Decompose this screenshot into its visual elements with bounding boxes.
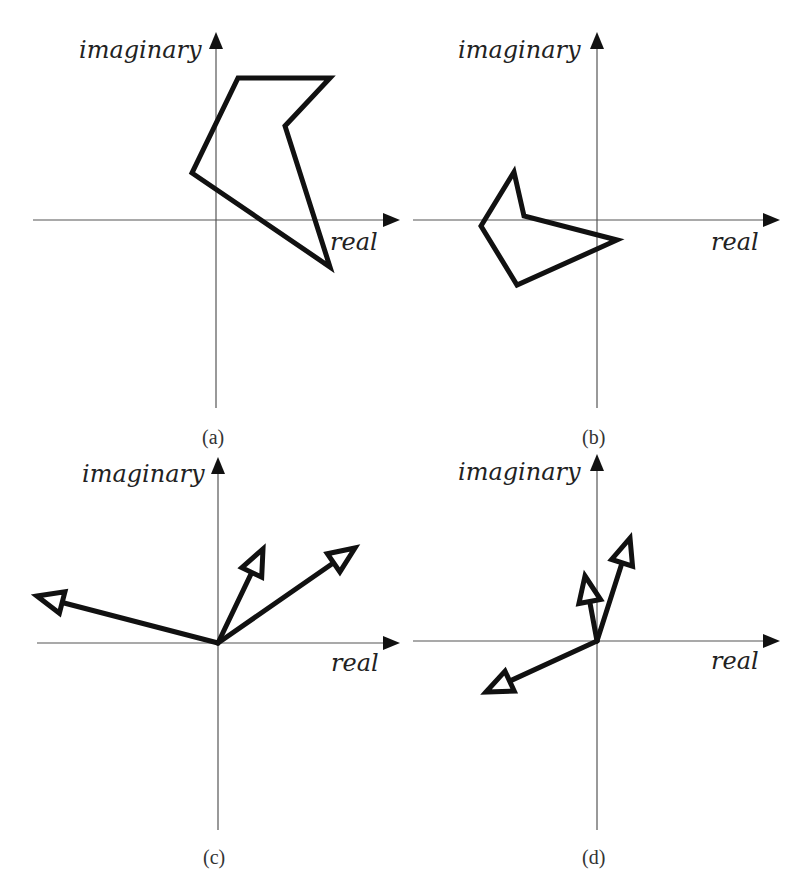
imaginary-axis-arrow-icon [590, 454, 604, 471]
panel-c: imaginary real (c) [37, 457, 400, 869]
panel-label: (c) [203, 846, 225, 869]
panel-d: imaginary real (d) [413, 454, 780, 869]
real-axis-arrow-icon [383, 636, 400, 650]
vector-shaft [590, 602, 597, 641]
vector-group [37, 548, 355, 643]
open-arrowhead-icon [37, 592, 65, 613]
vector-shaft [62, 603, 218, 643]
panel-a: imaginary real (a) [33, 32, 400, 449]
open-arrowhead-icon [242, 549, 263, 577]
open-arrowhead-icon [612, 538, 633, 566]
polygon-shape [192, 78, 330, 267]
imaginary-axis-arrow-icon [209, 32, 223, 49]
real-axis-label: real [330, 228, 378, 256]
imaginary-axis-label: imaginary [82, 460, 205, 488]
real-axis-arrow-icon [763, 634, 780, 648]
panel-label: (a) [202, 426, 224, 449]
imaginary-axis-label: imaginary [458, 458, 581, 486]
imaginary-axis-label: imaginary [79, 36, 202, 64]
imaginary-axis-label: imaginary [458, 36, 581, 64]
panel-label: (d) [582, 846, 605, 869]
real-axis-label: real [711, 228, 759, 256]
real-axis-arrow-icon [763, 213, 780, 227]
vector-group [486, 538, 633, 692]
open-arrowhead-icon [486, 671, 514, 692]
real-axis-label: real [331, 649, 379, 677]
open-arrowhead-icon [327, 548, 355, 572]
imaginary-axis-arrow-icon [590, 32, 604, 49]
real-axis-label: real [711, 647, 759, 675]
figure-canvas: imaginary real (a) imaginary real (b) im… [0, 0, 809, 894]
vector-shaft [510, 641, 597, 681]
panel-b: imaginary real (b) [413, 32, 780, 449]
imaginary-axis-arrow-icon [211, 457, 225, 474]
real-axis-arrow-icon [383, 213, 400, 227]
panel-label: (b) [582, 426, 605, 449]
